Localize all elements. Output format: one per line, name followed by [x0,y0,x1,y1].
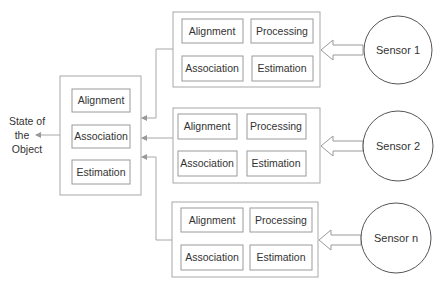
sensor-module-n: Alignment Processing Association Estimat… [172,202,318,277]
module-2-estimation-label: Estimation [251,157,300,169]
hollow-arrow-sensor-1 [321,40,363,60]
module-n-processing-label: Processing [255,214,307,226]
output-label-line-2: the [15,129,30,141]
module-n-alignment-label: Alignment [189,214,236,226]
module-2-processing-label: Processing [250,120,302,132]
fusion-alignment-label: Alignment [78,94,125,106]
fusion-estimation-label: Estimation [76,166,125,178]
output-label-line-3: Object [12,143,42,155]
module-1-processing-label: Processing [256,25,308,37]
sensor-2-label: Sensor 2 [376,140,420,152]
hollow-arrow-sensor-2 [321,136,363,156]
hollow-arrow-sensor-n [319,230,361,250]
sensor-fusion-diagram: State of the Object Alignment Associatio… [0,0,440,292]
sensor-2: Sensor 2 [363,111,433,181]
module-1-association-label: Association [185,62,239,74]
module-1-estimation-label: Estimation [257,62,306,74]
module-n-estimation-label: Estimation [256,251,305,263]
sensor-1-label: Sensor 1 [376,44,420,56]
connector-sensor-n [142,157,173,240]
sensor-n: Sensor n [361,203,431,273]
sensor-n-label: Sensor n [374,232,418,244]
module-1-alignment-label: Alignment [189,25,236,37]
module-n-association-label: Association [185,251,239,263]
sensor-1: Sensor 1 [364,16,432,84]
output-label-line-1: State of [9,115,45,127]
module-2-association-label: Association [180,157,234,169]
fusion-center: Alignment Association Estimation [60,76,141,195]
connector-sensor-1 [142,49,173,118]
sensor-module-1: Alignment Processing Association Estimat… [173,12,320,87]
fusion-association-label: Association [74,130,128,142]
module-2-alignment-label: Alignment [184,120,231,132]
sensor-module-2: Alignment Processing Association Estimat… [173,108,320,183]
